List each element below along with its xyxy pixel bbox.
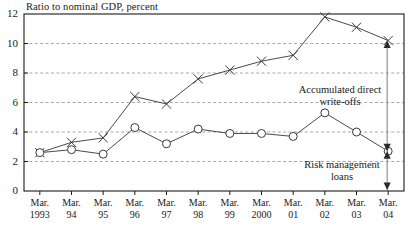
y-axis-tick-label: 8 <box>0 66 18 78</box>
annotation-line-1: Accumulated direct <box>286 84 394 96</box>
x-tick-year: 04 <box>368 209 408 221</box>
chart-container: Ratio to nominal GDP, percent 024681012 … <box>0 0 415 226</box>
annotation-line-1: Risk management <box>290 159 394 171</box>
y-axis-tick-label: 4 <box>0 125 18 137</box>
y-axis-tick-label: 2 <box>0 155 18 167</box>
annotation-line-2: write-offs <box>286 96 394 108</box>
y-axis-tick-label: 6 <box>0 96 18 108</box>
y-axis-tick-label: 10 <box>0 37 18 49</box>
x-axis-tick-label: Mar.04 <box>368 197 408 220</box>
y-axis-ticks <box>24 44 28 162</box>
annotation-accumulated-write-offs: Accumulated direct write-offs <box>286 84 394 108</box>
annotation-line-2: loans <box>290 171 394 183</box>
y-axis-tick-label: 0 <box>0 184 18 196</box>
x-axis-ticks <box>40 191 388 195</box>
y-axis-tick-label: 12 <box>0 7 18 19</box>
annotation-risk-management-loans: Risk management loans <box>290 159 394 183</box>
x-tick-month: Mar. <box>368 197 408 209</box>
chart-plot-svg <box>0 0 415 226</box>
